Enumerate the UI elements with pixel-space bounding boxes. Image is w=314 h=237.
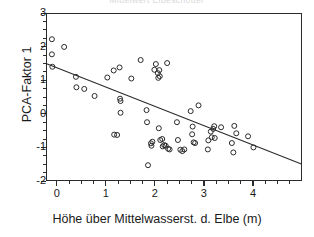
data-point: [219, 125, 224, 130]
data-point: [231, 150, 236, 155]
data-point: [49, 52, 54, 57]
data-point: [144, 108, 149, 113]
data-point: [157, 68, 162, 73]
x-tick-label: 3: [191, 188, 217, 199]
data-point: [232, 123, 237, 128]
x-tick-minor: [289, 181, 290, 184]
x-tick-minor: [179, 181, 180, 184]
data-points-group: [49, 37, 256, 168]
x-tick-minor: [93, 181, 94, 184]
x-tick-label: 1: [93, 188, 119, 199]
data-point: [153, 62, 158, 67]
data-point: [175, 138, 180, 143]
data-point: [62, 44, 67, 49]
x-tick-minor: [81, 181, 82, 184]
chart-title: Mittelwert Elbeschotter: [0, 0, 314, 3]
data-point: [105, 75, 110, 80]
data-point: [205, 147, 210, 152]
data-point: [188, 109, 193, 114]
data-point: [174, 120, 179, 125]
x-axis-title: Höhe über Mittelwasserst. d. Elbe (m): [0, 212, 314, 226]
x-tick-minor: [265, 181, 266, 184]
data-point: [138, 58, 143, 63]
x-tick-minor: [142, 181, 143, 184]
x-tick-minor: [240, 181, 241, 184]
data-point: [145, 120, 150, 125]
x-tick-minor: [130, 181, 131, 184]
scatter-plot-canvas: [46, 13, 302, 181]
chart-figure: Mittelwert Elbeschotter -2-1012301234 PC…: [0, 0, 314, 237]
x-tick-major: [154, 181, 155, 186]
x-tick-minor: [228, 181, 229, 184]
data-point: [196, 103, 201, 108]
data-point: [165, 61, 170, 66]
data-point: [156, 126, 161, 131]
x-tick-label: 0: [44, 188, 70, 199]
data-point: [190, 124, 195, 129]
data-point: [212, 135, 217, 140]
data-point: [118, 110, 123, 115]
data-point: [129, 76, 134, 81]
x-tick-minor: [277, 181, 278, 184]
data-point: [190, 132, 195, 137]
data-point: [117, 65, 122, 70]
trendline-group: [46, 63, 302, 164]
data-point: [246, 134, 251, 139]
data-point: [234, 131, 239, 136]
y-axis-title: PCA-Faktor 1: [21, 0, 34, 170]
data-point: [92, 93, 97, 98]
x-tick-label: 2: [142, 188, 168, 199]
data-point: [111, 68, 116, 73]
x-tick-label: 4: [240, 188, 266, 199]
x-tick-major: [252, 181, 253, 186]
data-point: [229, 141, 234, 146]
x-tick-major: [105, 181, 106, 186]
x-tick-major: [56, 181, 57, 186]
x-tick-minor: [167, 181, 168, 184]
data-point: [49, 37, 54, 42]
x-tick-minor: [69, 181, 70, 184]
x-tick-minor: [191, 181, 192, 184]
x-tick-minor: [118, 181, 119, 184]
data-point: [146, 163, 151, 168]
x-tick-minor: [216, 181, 217, 184]
x-tick-major: [203, 181, 204, 186]
regression-line: [46, 63, 302, 164]
data-point: [82, 86, 87, 91]
y-tick-label: -2: [20, 175, 46, 186]
data-point: [74, 85, 79, 90]
